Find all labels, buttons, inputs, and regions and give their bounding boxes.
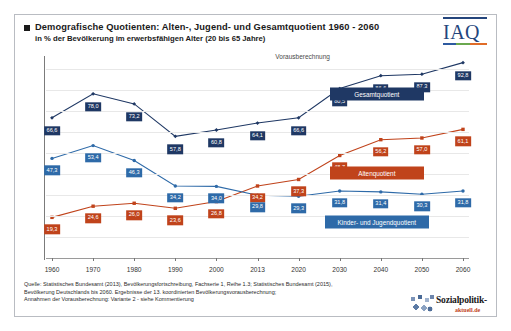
data-label: 56,2: [373, 147, 389, 156]
data-label: 53,4: [85, 153, 101, 162]
x-tick-mark-1980: [134, 258, 135, 261]
square-bullet-icon: [24, 25, 30, 31]
data-label: 34,2: [167, 193, 183, 202]
data-label: 31,8: [332, 198, 348, 207]
x-tick-mark-1960: [52, 258, 53, 261]
data-label: 19,3: [44, 225, 60, 234]
marker-point: [91, 205, 94, 208]
source-line-3: Annahmen der Vorausberechnung: Variante …: [24, 296, 404, 304]
page-subtitle: in % der Bevölkerung im erwerbsfähigen A…: [35, 34, 444, 44]
x-tick-mark-1990: [175, 258, 176, 261]
marker-point: [215, 185, 218, 188]
marker-point: [133, 159, 136, 162]
watermark-word-1: Sozialpolitik-: [436, 295, 487, 305]
x-tick-label-2020: 2020: [291, 266, 306, 273]
gridline-70: [46, 111, 469, 112]
data-label: 78,0: [85, 102, 101, 111]
marker-point: [461, 61, 465, 65]
data-label: 73,2: [126, 112, 142, 121]
plot-area: 66,678,073,257,860,864,166,680,586,687,3…: [46, 58, 469, 258]
data-label: 34,0: [209, 194, 225, 203]
data-label: 61,1: [455, 137, 471, 146]
x-tick-mark-2040: [381, 258, 382, 261]
chart-header: Demografische Quotienten: Alten-, Jugend…: [24, 22, 444, 44]
logo-rule-bottom: [443, 43, 487, 45]
x-tick-mark-2050: [422, 258, 423, 261]
legend-navy: Gesamtquotient: [330, 87, 424, 100]
marker-point: [174, 207, 177, 210]
x-axis: 1960197019801990200020132020203020402050…: [46, 258, 469, 280]
people-crowd-icon: [409, 293, 435, 317]
x-tick-mark-2060: [463, 258, 464, 261]
x-tick-label-2030: 2030: [332, 266, 347, 273]
data-label: 47,3: [44, 166, 60, 175]
data-label: 34,2: [250, 193, 266, 202]
data-label: 26,8: [209, 209, 225, 218]
iaq-logo: IAQ: [443, 17, 491, 51]
x-tick-label-2013: 2013: [250, 266, 265, 273]
x-tick-mark-2020: [299, 258, 300, 261]
marker-point: [256, 184, 259, 187]
marker-point: [379, 138, 382, 141]
data-label: 66,6: [44, 126, 60, 135]
marker-point: [338, 189, 341, 192]
data-label: 37,3: [291, 187, 307, 196]
marker-point: [379, 74, 383, 78]
marker-point: [256, 121, 260, 125]
data-label: 66,6: [291, 126, 307, 135]
marker-point: [174, 184, 177, 187]
legend-orange: Altenquotient: [330, 166, 424, 179]
sozialpolitik-watermark: Sozialpolitik- aktuell.de: [409, 291, 493, 321]
gridline-50: [46, 153, 469, 154]
source-line-1: Quelle: Statistisches Bundesamt (2013), …: [24, 281, 404, 289]
data-label: 57,0: [414, 145, 430, 154]
x-tick-mark-2013: [258, 258, 259, 261]
data-label: 60,8: [209, 138, 225, 147]
x-tick-label-2040: 2040: [373, 266, 388, 273]
marker-point: [133, 202, 136, 205]
data-label: 24,6: [85, 214, 101, 223]
data-label: 64,1: [250, 131, 266, 140]
marker-point: [91, 144, 94, 147]
x-tick-mark-1970: [93, 258, 94, 261]
gridline-10: [46, 237, 469, 238]
source-note: Quelle: Statistisches Bundesamt (2013), …: [24, 281, 404, 304]
x-tick-label-1980: 1980: [127, 266, 142, 273]
data-label: 23,6: [167, 216, 183, 225]
data-label: 31,4: [373, 199, 389, 208]
source-line-2: Bevölkerung Deutschlands bis 2060. Ergeb…: [24, 289, 404, 297]
data-label: 26,0: [126, 211, 142, 220]
legend-blue: Kinder- und Jugendquotient: [325, 216, 429, 229]
x-tick-mark-2000: [216, 258, 217, 261]
marker-point: [379, 190, 382, 193]
data-label: 92,8: [455, 71, 471, 80]
page-title: Demografische Quotienten: Alten-, Jugend…: [35, 22, 379, 33]
x-tick-label-2000: 2000: [209, 266, 224, 273]
marker-point: [420, 136, 423, 139]
data-label: 29,3: [291, 204, 307, 213]
data-label: 31,8: [455, 198, 471, 207]
x-tick-label-1990: 1990: [168, 266, 183, 273]
forecast-annotation: Vorausberechnung: [275, 53, 330, 60]
marker-point: [50, 157, 53, 160]
gridline-90: [46, 69, 469, 70]
x-tick-label-2060: 2060: [456, 266, 471, 273]
data-label: 30,3: [414, 202, 430, 211]
data-label: 57,8: [167, 145, 183, 154]
marker-point: [461, 189, 464, 192]
marker-point: [420, 72, 424, 76]
watermark-word-2: aktuell.de: [455, 307, 480, 313]
iaq-logo-text: IAQ: [443, 19, 491, 43]
data-label: 29,8: [250, 203, 266, 212]
x-tick-label-1960: 1960: [45, 266, 60, 273]
marker-point: [338, 154, 341, 157]
marker-point: [297, 178, 300, 181]
x-tick-label-1970: 1970: [86, 266, 101, 273]
data-label: 46,3: [126, 168, 142, 177]
chart-page: Demografische Quotienten: Alten-, Jugend…: [0, 0, 511, 331]
x-tick-label-2050: 2050: [415, 266, 430, 273]
marker-point: [461, 128, 464, 131]
x-tick-mark-2030: [340, 258, 341, 261]
